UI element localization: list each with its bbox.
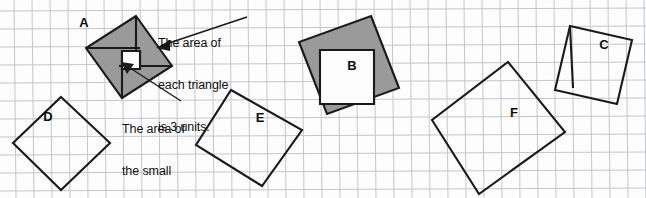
shape-label-c: C bbox=[599, 37, 609, 52]
shape-label-f: F bbox=[510, 105, 518, 120]
shape-label-e: E bbox=[256, 110, 265, 125]
annotation-triangle-line1: The area of bbox=[158, 36, 228, 50]
shape-label-a: A bbox=[79, 15, 89, 30]
shape-label-b: B bbox=[347, 58, 356, 73]
annotation-square-line1: The area of bbox=[122, 122, 185, 136]
annotation-triangle-line2: each triangle bbox=[158, 78, 228, 92]
annotation-square-area: The area of the small square is 1 unit. bbox=[122, 94, 185, 198]
annotation-square-line2: the small bbox=[122, 164, 185, 178]
geometry-diagram: A B C D E F bbox=[0, 0, 646, 198]
shape-label-d: D bbox=[43, 109, 52, 124]
figure-canvas: A B C D E F bbox=[0, 0, 646, 198]
